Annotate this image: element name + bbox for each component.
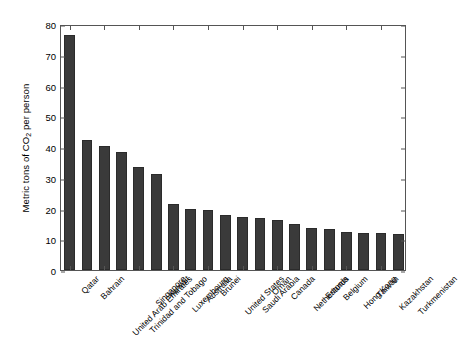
bar — [203, 210, 214, 270]
bar — [151, 174, 162, 270]
y-axis-tick-label: 60 — [45, 83, 56, 93]
bar — [64, 35, 75, 270]
x-axis-tick-mark — [208, 266, 209, 270]
y-axis-tick-label: 70 — [45, 52, 56, 62]
x-axis-tick-mark — [381, 26, 382, 30]
y-axis-tick-mark — [61, 241, 65, 242]
x-axis-tick-label: Bahrain — [99, 273, 127, 301]
y-axis-tick-label: 0 — [51, 267, 56, 277]
x-axis-tick-mark — [346, 26, 347, 30]
x-axis-tick-mark — [173, 26, 174, 30]
plot-area: 01020304050607080 — [60, 25, 406, 271]
x-axis-tick-mark — [277, 266, 278, 270]
x-axis-tick-mark — [346, 266, 347, 270]
x-axis-tick-mark — [139, 266, 140, 270]
bar — [306, 228, 317, 270]
y-axis-tick-label: 30 — [45, 175, 56, 185]
y-axis-tick-label: 10 — [45, 237, 56, 247]
bar — [220, 215, 231, 270]
bar — [99, 146, 110, 270]
y-axis-tick-mark — [401, 210, 405, 211]
y-axis-tick-mark — [401, 87, 405, 88]
y-axis-tick-label: 40 — [45, 144, 56, 154]
x-axis-tick-mark — [312, 26, 313, 30]
x-axis-tick-mark — [104, 26, 105, 30]
x-axis-tick-mark — [173, 266, 174, 270]
y-axis-tick-mark — [401, 118, 405, 119]
y-axis-tick-mark — [61, 179, 65, 180]
bar — [185, 209, 196, 270]
x-axis-tick-mark — [277, 26, 278, 30]
bar — [237, 217, 248, 270]
bar — [133, 167, 144, 270]
y-axis-tick-mark — [401, 241, 405, 242]
x-axis-tick-label: Qatar — [79, 273, 101, 295]
bar — [168, 204, 179, 270]
bar — [358, 233, 369, 270]
y-axis-tick-label: 50 — [45, 114, 56, 124]
y-axis-tick-mark — [61, 118, 65, 119]
y-axis-tick-mark — [61, 26, 65, 27]
y-axis-tick-mark — [61, 149, 65, 150]
y-axis-title-before: Metric tons of CO — [20, 137, 31, 213]
y-axis-tick-mark — [61, 210, 65, 211]
bar — [82, 140, 93, 270]
y-axis-tick-mark — [401, 56, 405, 57]
bar — [393, 234, 404, 270]
y-axis-title-after: per person — [20, 84, 31, 133]
y-axis-tick-label: 80 — [45, 21, 56, 31]
y-axis-title-subscript: 2 — [25, 133, 32, 137]
bar — [289, 224, 300, 270]
y-axis-title: Metric tons of CO2 per person — [20, 25, 34, 271]
bar — [255, 218, 266, 270]
bar — [272, 220, 283, 270]
x-axis-tick-labels: QatarBahrainUnited Arab EmiratesTrinidad… — [60, 273, 406, 344]
bar — [376, 233, 387, 270]
x-axis-tick-mark — [208, 26, 209, 30]
x-axis-tick-label: Taiwan — [375, 273, 401, 299]
y-axis-tick-mark — [401, 149, 405, 150]
y-axis-tick-mark — [61, 87, 65, 88]
bar — [116, 152, 127, 270]
y-axis-tick-label: 20 — [45, 206, 56, 216]
y-axis-tick-mark — [401, 26, 405, 27]
x-axis-tick-mark — [70, 26, 71, 30]
x-axis-tick-mark — [70, 266, 71, 270]
x-axis-tick-mark — [243, 266, 244, 270]
y-axis-tick-mark — [61, 56, 65, 57]
x-axis-tick-mark — [312, 266, 313, 270]
x-axis-tick-mark — [104, 266, 105, 270]
x-axis-tick-mark — [243, 26, 244, 30]
bars-layer — [61, 26, 405, 270]
y-axis-tick-mark — [401, 179, 405, 180]
x-axis-tick-mark — [139, 26, 140, 30]
bar — [341, 232, 352, 270]
bar — [324, 229, 335, 270]
x-axis-tick-mark — [381, 266, 382, 270]
